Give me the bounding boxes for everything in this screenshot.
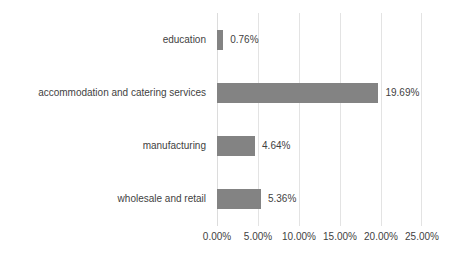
xtick-label-4: 20.00% [364, 230, 398, 244]
xtick-label-5: 25.00% [405, 230, 439, 244]
xtick-label-0: 0.00% [203, 230, 231, 244]
category-row: wholesale and retail [0, 173, 212, 226]
bar-wholesale-and-retail[interactable] [217, 189, 261, 209]
xtick-label-3: 15.00% [323, 230, 357, 244]
bar-value-accommodation-and-catering-services: 19.69% [385, 87, 419, 99]
bar-manufacturing[interactable] [217, 136, 255, 156]
xtick-label-2: 10.00% [282, 230, 316, 244]
category-label-wholesale-and-retail: wholesale and retail [118, 193, 206, 205]
category-axis: education accommodation and catering ser… [0, 13, 212, 226]
value-axis: 0.00% 5.00% 10.00% 15.00% 20.00% 25.00% [217, 230, 422, 246]
bar-row: 5.36% [217, 173, 422, 226]
bar-value-wholesale-and-retail: 5.36% [268, 193, 296, 205]
bar-education[interactable] [217, 30, 223, 50]
bar-accommodation-and-catering-services[interactable] [217, 83, 378, 103]
bar-row: 4.64% [217, 120, 422, 173]
category-label-manufacturing: manufacturing [143, 140, 206, 152]
bar-chart: education accommodation and catering ser… [0, 0, 463, 259]
category-label-accommodation-and-catering-services: accommodation and catering services [38, 87, 206, 99]
category-row: manufacturing [0, 120, 212, 173]
bar-value-education: 0.76% [230, 34, 258, 46]
bar-row: 19.69% [217, 66, 422, 119]
plot-area: 0.76% 19.69% 4.64% 5.36% [217, 13, 422, 226]
bar-value-manufacturing: 4.64% [262, 140, 290, 152]
category-row: education [0, 13, 212, 66]
bar-row: 0.76% [217, 13, 422, 66]
bar-series: 0.76% 19.69% 4.64% 5.36% [217, 13, 422, 226]
xtick-label-1: 5.00% [244, 230, 272, 244]
category-row: accommodation and catering services [0, 66, 212, 119]
category-label-education: education [163, 34, 206, 46]
